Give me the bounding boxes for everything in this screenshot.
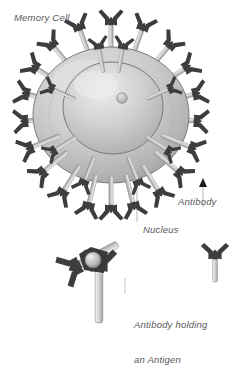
label-antigen-caption: Antibody holding an Antigen <box>134 296 207 369</box>
antibody-leader-arrowhead <box>199 178 207 187</box>
nucleolus-dot <box>117 93 127 103</box>
label-antigen-caption-line1: Antibody holding <box>134 319 207 331</box>
label-antibody: Antibody <box>178 196 217 208</box>
label-antigen-caption-line2: an Antigen <box>134 354 207 366</box>
label-memory-cell: Memory Cell <box>14 12 70 24</box>
reference-antibody <box>201 243 229 282</box>
label-nucleus: Nucleus <box>143 224 179 236</box>
antigen <box>79 247 108 273</box>
antibody-antigen-complex <box>53 229 125 323</box>
